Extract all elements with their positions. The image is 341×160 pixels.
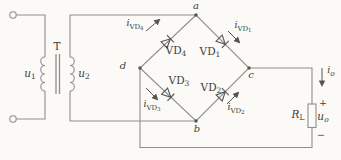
rl-base: R: [292, 108, 300, 120]
vd3-base: VD: [169, 74, 185, 86]
ivd2-subsub: 2: [241, 109, 245, 115]
node-b-label: b: [194, 124, 200, 134]
output-polarity-plus: +: [319, 98, 327, 108]
current-ivd4-label: iVD4: [126, 18, 143, 32]
ivd3-sub: VD: [146, 104, 157, 112]
current-ivd3-label: iVD3: [143, 99, 160, 113]
vd2-base: VD: [201, 81, 217, 93]
output-polarity-minus: −: [317, 130, 325, 140]
primary-top-wire: [16, 15, 45, 57]
load-resistor-symbol: [308, 104, 316, 128]
ivd3-subsub: 3: [157, 106, 161, 112]
wire-node-c-to-load: [249, 68, 312, 104]
secondary-voltage-label: u2: [78, 68, 90, 81]
current-ivd2-label: iVD2: [227, 102, 244, 116]
secondary-voltage-sub: 2: [85, 72, 90, 81]
current-arrow-ivd3: [146, 88, 157, 99]
uo-base: u: [317, 110, 324, 122]
output-voltage-label: uo: [317, 111, 328, 124]
primary-voltage-label: u1: [24, 68, 36, 81]
primary-voltage-base: u: [24, 67, 31, 79]
node-a-label: a: [193, 1, 199, 11]
node-d-label: d: [120, 61, 126, 71]
secondary-voltage-base: u: [78, 67, 85, 79]
node-a-dot: [194, 13, 197, 16]
wire-load-to-node-d: [140, 68, 312, 148]
primary-bottom-wire: [16, 91, 45, 119]
secondary-winding: [70, 57, 74, 91]
input-terminal-bottom: [10, 116, 16, 122]
bridge-rectifier-circuit-figure: T u1 u2 a d c b VD4 VD1 VD3 VD2 iVD4 iVD…: [0, 0, 341, 160]
diode-vd2-label: VD2: [201, 82, 222, 95]
diode-vd4-label: VD4: [166, 45, 187, 58]
rl-sub: L: [299, 113, 304, 122]
vd4-sub: 4: [182, 49, 187, 58]
vd3-sub: 3: [185, 79, 190, 88]
ivd4-sub: VD: [129, 23, 140, 31]
io-sub: o: [330, 69, 335, 78]
diode-vd1-label: VD1: [200, 46, 221, 59]
current-ivd1-label: iVD1: [234, 20, 251, 34]
current-arrow-ivd4: [146, 20, 159, 31]
uo-sub: o: [324, 115, 329, 124]
ivd1-sub: VD: [237, 25, 248, 33]
output-current-label: io: [327, 65, 335, 77]
input-terminal-top: [10, 12, 16, 18]
vd1-sub: 1: [216, 50, 221, 59]
transformer-core-label: T: [53, 41, 60, 52]
vd2-sub: 2: [217, 86, 222, 95]
load-resistor-label: RL: [292, 109, 305, 122]
vd4-base: VD: [166, 44, 182, 56]
ivd1-subsub: 1: [248, 27, 252, 33]
primary-winding: [41, 57, 45, 91]
ivd2-sub: VD: [230, 107, 241, 115]
node-c-label: c: [248, 70, 254, 80]
primary-voltage-sub: 1: [31, 72, 36, 81]
transformer-core: [56, 54, 60, 94]
vd1-base: VD: [200, 45, 216, 57]
ivd4-subsub: 4: [140, 25, 144, 31]
diode-vd3-label: VD3: [169, 75, 190, 88]
node-d-dot: [138, 66, 141, 69]
